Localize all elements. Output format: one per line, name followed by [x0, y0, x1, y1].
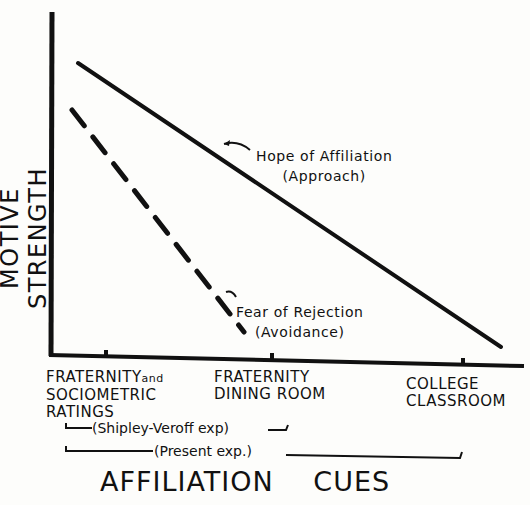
chart-canvas [0, 0, 530, 505]
x-axis [49, 355, 524, 366]
x-tick-2 [270, 353, 274, 359]
shipley-bracket-left [66, 423, 92, 428]
hope-annotation: Hope of Affiliation (Approach) [256, 146, 392, 186]
x-tick-3 [461, 358, 465, 363]
cat1-and: and [142, 372, 164, 385]
cat1-line2: SOCIOMETRIC [46, 386, 156, 404]
shipley-veroff-range-label: (Shipley-Veroff exp) [92, 420, 229, 436]
x-category-2: FRATERNITYDINING ROOM [214, 369, 326, 403]
present-bracket-right [286, 452, 462, 458]
y-axis-label: MOTIVE STRENGTH [0, 118, 52, 358]
fear-annotation: Fear of Rejection (Avoidance) [236, 302, 364, 342]
cat2-line2: DINING ROOM [214, 385, 326, 403]
cat1-line1: FRATERNITY [46, 368, 142, 386]
x-axis-label: AFFILIATION CUES [100, 466, 390, 497]
cat2-line1: FRATERNITY [214, 368, 310, 386]
x-category-3: COLLEGECLASSROOM [406, 376, 506, 410]
x-category-1: FRATERNITYandSOCIOMETRICRATINGS [46, 369, 164, 421]
cat3-line2: CLASSROOM [406, 392, 506, 410]
shipley-bracket-right [268, 425, 288, 430]
fear-of-rejection-line [72, 110, 244, 332]
present-exp-range-label: (Present exp.) [154, 443, 252, 459]
cat3-line1: COLLEGE [406, 375, 479, 393]
fear-pointer-arrow [226, 292, 236, 297]
cat1-line3: RATINGS [46, 403, 114, 421]
present-bracket-left [66, 446, 153, 451]
x-tick-1 [104, 350, 108, 356]
